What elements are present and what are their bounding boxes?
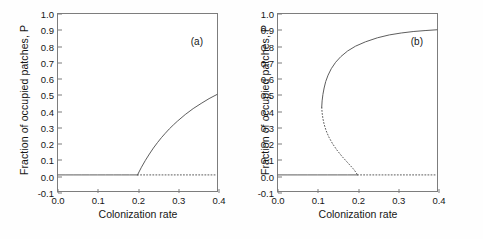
y-tick-mark [58, 62, 62, 63]
panel-label-b: (b) [411, 36, 423, 47]
y-tick-mark [278, 46, 282, 47]
y-tick-mark [58, 79, 62, 80]
y-tick-mark [58, 30, 62, 31]
y-tick-label-b: 0.3 [261, 122, 274, 133]
y-tick-mark [58, 111, 62, 112]
y-tick-label-a: 0.7 [41, 57, 54, 68]
y-tick-mark [58, 95, 62, 96]
x-tick-mark [58, 189, 59, 193]
y-tick-mark [58, 193, 62, 194]
x-tick-mark [219, 189, 220, 193]
plot-area-b: (b) 1.00.90.80.70.60.50.40.30.20.10.0-0.… [277, 13, 438, 192]
y-tick-mark [278, 144, 282, 145]
x-tick-label-a: 0.4 [212, 195, 225, 206]
y-tick-label-a: 0.9 [41, 25, 54, 36]
x-tick-label-a: 0.3 [172, 195, 185, 206]
x-tick-label-b: 0.2 [352, 195, 365, 206]
y-tick-label-b: 0.7 [261, 57, 274, 68]
plot-area-a: (a) 1.00.90.80.70.60.50.40.30.20.10.0-0.… [57, 13, 218, 192]
x-tick-label-a: 0.2 [132, 195, 145, 206]
curve-unstable-middle-branch [322, 107, 358, 175]
y-tick-mark [278, 176, 282, 177]
y-tick-mark [58, 144, 62, 145]
y-tick-mark [58, 176, 62, 177]
y-tick-mark [278, 95, 282, 96]
y-tick-label-b: 0.1 [261, 155, 274, 166]
y-tick-label-b: 0.4 [261, 106, 274, 117]
y-tick-label-a: 0.2 [41, 139, 54, 150]
x-axis-label-b: Colonization rate [277, 208, 439, 220]
y-tick-mark [278, 193, 282, 194]
y-tick-label-a: 0.0 [41, 171, 54, 182]
x-tick-label-a: 0.0 [51, 195, 64, 206]
y-tick-mark [58, 46, 62, 47]
y-tick-label-b: 0.0 [261, 171, 274, 182]
y-tick-mark [278, 127, 282, 128]
x-tick-mark [439, 189, 440, 193]
x-tick-mark [278, 189, 279, 193]
y-tick-label-a: 0.4 [41, 106, 54, 117]
y-tick-mark [278, 30, 282, 31]
y-tick-mark [278, 14, 282, 15]
y-tick-label-a: 0.1 [41, 155, 54, 166]
x-tick-mark [98, 189, 99, 193]
y-tick-mark [278, 111, 282, 112]
y-tick-mark [278, 160, 282, 161]
y-tick-label-b: 0.8 [261, 41, 274, 52]
y-axis-label-a: Fraction of occupied patches, P [16, 0, 32, 200]
panel-label-a: (a) [191, 36, 203, 47]
x-tick-mark [398, 189, 399, 193]
y-tick-label-b: 0.5 [261, 90, 274, 101]
y-tick-label-a: 1.0 [41, 9, 54, 20]
y-tick-label-a: 0.6 [41, 74, 54, 85]
y-tick-label-b: 0.6 [261, 74, 274, 85]
panel-b: Fraction of occupied patches, P (b) 1.00… [241, 0, 482, 239]
y-tick-label-b: 0.9 [261, 25, 274, 36]
x-tick-mark [318, 189, 319, 193]
y-tick-label-b: 1.0 [261, 9, 274, 20]
y-tick-mark [278, 62, 282, 63]
y-tick-mark [58, 127, 62, 128]
x-tick-label-b: 0.1 [312, 195, 325, 206]
y-tick-mark [58, 14, 62, 15]
y-tick-mark [278, 79, 282, 80]
x-axis-label-a: Colonization rate [57, 208, 219, 220]
bifurcation-figure: Fraction of occupied patches, P (a) 1.00… [0, 0, 483, 239]
x-tick-mark [138, 189, 139, 193]
y-tick-mark [58, 160, 62, 161]
x-tick-label-b: 0.0 [271, 195, 284, 206]
y-tick-label-a: 0.8 [41, 41, 54, 52]
x-tick-mark [358, 189, 359, 193]
y-tick-label-a: 0.5 [41, 90, 54, 101]
x-tick-label-b: 0.4 [432, 195, 445, 206]
x-tick-mark [178, 189, 179, 193]
panel-a: Fraction of occupied patches, P (a) 1.00… [0, 0, 241, 239]
curve-stable-occupied-branch [138, 94, 218, 174]
x-tick-label-b: 0.3 [392, 195, 405, 206]
x-tick-label-a: 0.1 [92, 195, 105, 206]
y-tick-label-b: 0.2 [261, 139, 274, 150]
y-tick-label-a: 0.3 [41, 122, 54, 133]
